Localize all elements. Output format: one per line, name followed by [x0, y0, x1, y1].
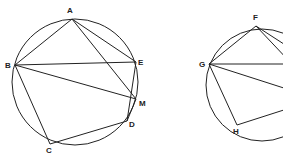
segment-DE: [127, 62, 136, 121]
vertex-labels: ABEMDCFGH: [5, 6, 258, 155]
segment-AE: [72, 19, 136, 62]
circumcircle-right: [206, 29, 283, 141]
segment-AB: [15, 19, 72, 65]
inscribed-polygon-right: [206, 26, 283, 141]
segment-BM: [15, 65, 136, 99]
segment-AM: [72, 19, 136, 99]
vertex-label-D: D: [129, 120, 135, 129]
segment-right-4: [209, 64, 283, 90]
segment-BC: [15, 65, 50, 144]
vertex-label-F: F: [253, 13, 258, 22]
vertex-label-M: M: [139, 99, 146, 108]
segment-right-5: [209, 64, 237, 125]
vertex-label-B: B: [5, 61, 11, 70]
segment-CD: [50, 121, 127, 144]
vertex-label-G: G: [199, 60, 205, 69]
segment-right-6: [237, 108, 283, 125]
vertex-label-E: E: [138, 58, 144, 67]
geometry-diagram: ABEMDCFGH: [0, 0, 283, 155]
segment-BE: [15, 62, 136, 65]
segment-right-0: [209, 26, 256, 64]
vertex-label-H: H: [233, 127, 239, 136]
inscribed-polygon-left: [12, 19, 138, 145]
vertex-label-C: C: [46, 146, 52, 155]
vertex-label-A: A: [67, 6, 73, 15]
